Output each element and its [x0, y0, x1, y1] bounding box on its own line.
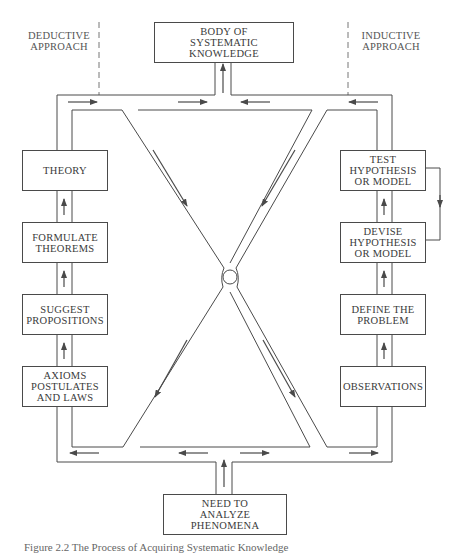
theory-text: THEORY	[43, 165, 87, 176]
flow-channels	[0, 0, 460, 553]
formulate-theorems-box: FORMULATE THEOREMS	[22, 222, 108, 263]
analyze-phenomena-text: NEED TO ANALYZE PHENOMENA	[164, 498, 286, 531]
devise-hypothesis-box: DEVISE HYPOTHESIS OR MODEL	[340, 222, 426, 263]
formulate-theorems-text: FORMULATE THEOREMS	[32, 232, 98, 254]
deductive-approach-label: DEDUCTIVE APPROACH	[24, 30, 94, 52]
define-problem-box: DEFINE THE PROBLEM	[340, 294, 426, 335]
analyze-phenomena-box: NEED TO ANALYZE PHENOMENA	[163, 494, 287, 535]
axioms-box: AXIOMS POSTULATES AND LAWS	[22, 366, 108, 407]
center-junction	[223, 270, 237, 284]
figure-caption: Figure 2.2 The Process of Acquiring Syst…	[24, 541, 288, 553]
suggest-propositions-box: SUGGEST PROPOSITIONS	[22, 294, 108, 335]
theory-box: THEORY	[22, 150, 108, 191]
observations-text: OBSERVATIONS	[343, 381, 423, 392]
axioms-text: AXIOMS POSTULATES AND LAWS	[31, 370, 99, 403]
test-hypothesis-box: TEST HYPOTHESIS OR MODEL	[340, 150, 426, 191]
observations-box: OBSERVATIONS	[340, 366, 426, 407]
devise-hypothesis-text: DEVISE HYPOTHESIS OR MODEL	[349, 226, 416, 259]
inductive-approach-label: INDUCTIVE APPROACH	[356, 30, 426, 52]
suggest-propositions-text: SUGGEST PROPOSITIONS	[26, 304, 104, 326]
systematic-knowledge-text: BODY OF SYSTEMATIC KNOWLEDGE	[155, 26, 293, 59]
systematic-knowledge-box: BODY OF SYSTEMATIC KNOWLEDGE	[154, 22, 294, 63]
test-hypothesis-text: TEST HYPOTHESIS OR MODEL	[349, 154, 416, 187]
define-problem-text: DEFINE THE PROBLEM	[351, 304, 414, 326]
